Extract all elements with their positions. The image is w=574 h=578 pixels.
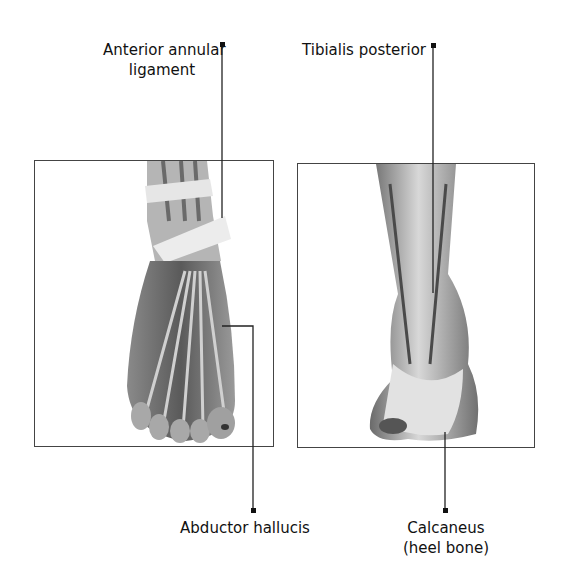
leader-abductor-hallucis: [222, 326, 253, 510]
leader-end-marker: [443, 508, 448, 513]
leader-lines: [0, 0, 574, 578]
leader-end-marker: [431, 43, 436, 48]
leader-end-marker: [251, 508, 256, 513]
leader-end-marker: [220, 42, 225, 47]
